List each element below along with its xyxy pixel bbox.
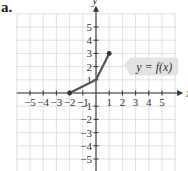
endpoint-dot <box>67 91 72 96</box>
x-tick-label: 3 <box>133 96 139 108</box>
function-graph: −5−4−3−2−112345−5−4−3−2−112345 xyy = f(x… <box>0 0 188 171</box>
x-axis-label: x <box>185 86 188 100</box>
endpoint-dot <box>107 51 112 56</box>
x-axis-arrow-icon <box>177 90 183 96</box>
x-tick-label: 5 <box>159 96 165 108</box>
x-tick-label: −3 <box>51 96 63 108</box>
y-tick-label: −2 <box>80 113 92 125</box>
x-tick-label: −4 <box>37 96 49 108</box>
y-tick-label: −3 <box>80 127 92 139</box>
y-tick-label: 5 <box>87 21 93 33</box>
x-tick-label: −5 <box>24 96 36 108</box>
y-tick-label: −1 <box>80 100 92 112</box>
y-tick-label: 3 <box>87 47 93 59</box>
x-tick-label: −2 <box>64 96 76 108</box>
y-tick-label: −5 <box>80 153 92 165</box>
labels: xyy = f(x) <box>91 0 188 100</box>
x-tick-label: 1 <box>106 96 112 108</box>
axes <box>17 6 183 171</box>
y-tick-label: 4 <box>87 34 93 46</box>
y-tick-label: 2 <box>87 61 93 73</box>
function-label: y = f(x) <box>135 60 172 74</box>
y-tick-label: −4 <box>80 140 92 152</box>
x-tick-label: 2 <box>120 96 126 108</box>
x-tick-label: 4 <box>146 96 152 108</box>
y-axis-label: y <box>91 0 98 7</box>
